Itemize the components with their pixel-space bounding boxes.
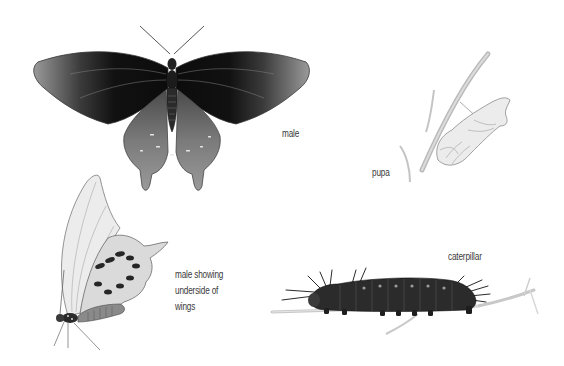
male-underside-illustration [24, 166, 174, 356]
label-male-underside: male showing underside of wings [175, 267, 223, 315]
label-male: male [282, 126, 299, 142]
pupa-icon [396, 50, 526, 190]
pupa-illustration [396, 50, 526, 190]
label-caterpillar: caterpillar [448, 249, 482, 265]
label-pupa: pupa [372, 165, 390, 181]
caterpillar-icon [268, 266, 540, 336]
label-line: wings [175, 299, 223, 315]
label-line: male showing [175, 267, 223, 283]
caterpillar-illustration [268, 266, 540, 336]
butterfly-underside-icon [24, 166, 174, 356]
label-line: underside of [175, 283, 223, 299]
